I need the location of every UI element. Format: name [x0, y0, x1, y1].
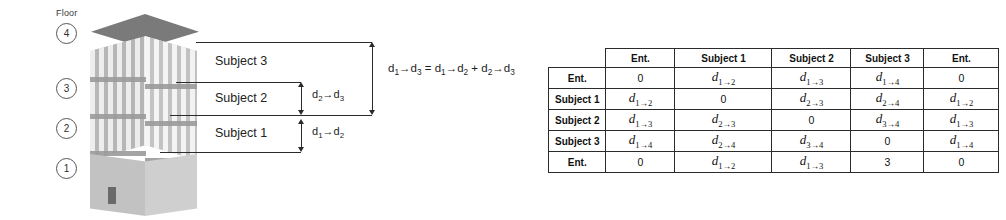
- windows-right: [145, 36, 197, 160]
- dim-arrow-up-d2d3: [298, 82, 304, 87]
- matrix-row-header: Subject 1: [549, 89, 606, 110]
- matrix-header-row: Ent. Subject 1 Subject 2 Subject 3 Ent.: [549, 49, 999, 68]
- distance-matrix-table: Ent. Subject 1 Subject 2 Subject 3 Ent. …: [548, 48, 999, 173]
- matrix-col-header-subject-2: Subject 2: [772, 49, 851, 68]
- matrix-cell-r2-c3: d3→4: [851, 110, 924, 131]
- dim-arrow-down-d1d3: [369, 110, 375, 115]
- matrix-cell-r0-c3: d1→4: [851, 68, 924, 89]
- floor-badge-4: 4: [56, 23, 77, 44]
- ground-floor-left: [90, 154, 146, 216]
- zone-label-subject-3: Subject 3: [215, 54, 267, 68]
- matrix-row-header: Subject 2: [549, 110, 606, 131]
- matrix-cell-r1-c1: 0: [675, 89, 772, 110]
- distance-equation: d1→d3 = d1→d2 + d2→d3: [388, 62, 515, 77]
- matrix-row-header: Subject 3: [549, 131, 606, 152]
- matrix-col-header-ent-1: Ent.: [606, 49, 675, 68]
- matrix-body: Ent.0d1→2d1→3d1→40Subject 1d1→20d2→3d2→4…: [549, 68, 999, 173]
- matrix-col-header-subject-3: Subject 3: [851, 49, 924, 68]
- matrix-cell-r2-c1: d2→3: [675, 110, 772, 131]
- dim-arrow-down-d2d3: [298, 110, 304, 115]
- matrix-header: Ent. Subject 1 Subject 2 Subject 3 Ent.: [549, 49, 999, 68]
- matrix-row: Ent.0d1→2d1→3d1→40: [549, 68, 999, 89]
- matrix-row-header: Ent.: [549, 152, 606, 173]
- slab-right-2: [145, 121, 197, 126]
- matrix-cell-r0-c1: d1→2: [675, 68, 772, 89]
- matrix-cell-r1-c3: d2→4: [851, 89, 924, 110]
- dim-arrow-up-d1d2: [298, 119, 304, 124]
- matrix-cell-r2-c4: d1→3: [924, 110, 999, 131]
- dim-line-d2-d3: [301, 86, 302, 111]
- zone-label-subject-1: Subject 1: [215, 126, 267, 140]
- floor-header-label: Floor: [56, 8, 78, 18]
- matrix-cell-r4-c3: 3: [851, 152, 924, 173]
- leader-line-floor4: [196, 42, 372, 43]
- matrix-cell-r4-c4: 0: [924, 152, 999, 173]
- dim-label-d2-d3-text: d2→d3: [312, 88, 344, 100]
- matrix-cell-r3-c2: d3→4: [772, 131, 851, 152]
- matrix-cell-r2-c0: d1→3: [606, 110, 675, 131]
- entrance-door-icon: [108, 187, 116, 204]
- floor-badge-1: 1: [56, 158, 77, 179]
- matrix-row: Subject 3d1→4d2→4d3→40d1→4: [549, 131, 999, 152]
- windows-left: [90, 36, 146, 160]
- matrix-col-header-subject-1: Subject 1: [675, 49, 772, 68]
- building-diagram: Floor 4 3 2 1 Subject 3 Subject: [0, 0, 470, 220]
- ground-floor-right: [145, 154, 197, 216]
- matrix-cell-r1-c4: d1→2: [924, 89, 999, 110]
- dim-label-d1-d2: d1→d2: [312, 125, 344, 140]
- matrix-cell-r3-c3: 0: [851, 131, 924, 152]
- matrix-row: Ent.0d1→2d1→330: [549, 152, 999, 173]
- matrix-cell-r4-c0: 0: [606, 152, 675, 173]
- leader-line-floor3: [176, 82, 301, 83]
- dim-label-d1-d2-text: d1→d2: [312, 125, 344, 137]
- dim-arrow-down-d1d2: [298, 147, 304, 152]
- dim-label-d2-d3: d2→d3: [312, 88, 344, 103]
- floor-badge-3: 3: [56, 78, 77, 99]
- matrix-cell-r1-c2: d2→3: [772, 89, 851, 110]
- matrix-row: Subject 1d1→20d2→3d2→4d1→2: [549, 89, 999, 110]
- slab-left-2: [90, 114, 146, 119]
- dim-line-d1-d3: [372, 46, 373, 111]
- slab-right-3: [145, 84, 197, 89]
- figure-root: Floor 4 3 2 1 Subject 3 Subject: [0, 0, 1006, 220]
- matrix-cell-r3-c0: d1→4: [606, 131, 675, 152]
- matrix-col-header-ent-2: Ent.: [924, 49, 999, 68]
- matrix-cell-r3-c4: d1→4: [924, 131, 999, 152]
- leader-line-floor1: [160, 152, 301, 153]
- matrix-cell-r1-c0: d1→2: [606, 89, 675, 110]
- matrix-corner-cell: [549, 49, 606, 68]
- distance-matrix: Ent. Subject 1 Subject 2 Subject 3 Ent. …: [548, 48, 999, 173]
- slab-left-3: [90, 77, 146, 82]
- building-illustration: [86, 14, 204, 210]
- matrix-cell-r4-c1: d1→2: [675, 152, 772, 173]
- matrix-cell-r4-c2: d1→3: [772, 152, 851, 173]
- matrix-cell-r2-c2: 0: [772, 110, 851, 131]
- matrix-cell-r0-c4: 0: [924, 68, 999, 89]
- matrix-row: Subject 2d1→3d2→30d3→4d1→3: [549, 110, 999, 131]
- matrix-cell-r0-c2: d1→3: [772, 68, 851, 89]
- matrix-cell-r0-c0: 0: [606, 68, 675, 89]
- zone-label-subject-2: Subject 2: [215, 91, 267, 105]
- matrix-cell-r3-c1: d2→4: [675, 131, 772, 152]
- floor-badge-2: 2: [56, 118, 77, 139]
- matrix-row-header: Ent.: [549, 68, 606, 89]
- dim-line-d1-d2: [301, 123, 302, 148]
- dim-arrow-up-d1d3: [369, 42, 375, 47]
- leader-line-floor2: [170, 115, 372, 116]
- distance-equation-text: d1→d3 = d1→d2 + d2→d3: [388, 62, 515, 74]
